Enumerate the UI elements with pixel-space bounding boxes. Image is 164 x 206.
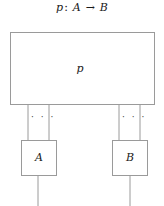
box-a-label: A bbox=[22, 152, 56, 163]
left-wire-ellipsis-icon: · · · bbox=[31, 113, 55, 122]
string-diagram-figure: p: A → B p A B · · · · · · bbox=[0, 0, 164, 206]
diagram-canvas bbox=[0, 0, 164, 206]
box-b-label: B bbox=[112, 152, 148, 163]
box-p-label: p bbox=[66, 63, 94, 74]
right-wire-ellipsis-icon: · · · bbox=[122, 113, 146, 122]
